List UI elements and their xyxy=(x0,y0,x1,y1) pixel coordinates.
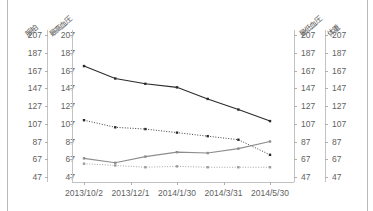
series-weight xyxy=(83,140,271,164)
axis-tick-label: 147 xyxy=(301,84,315,93)
data-point-diastolic[interactable] xyxy=(144,128,146,130)
axis-tick-label: 187 xyxy=(301,49,315,58)
data-point-pulse[interactable] xyxy=(206,166,208,168)
axis-tick-mark xyxy=(70,159,73,160)
data-point-weight[interactable] xyxy=(237,147,239,149)
series-systolic xyxy=(83,65,271,122)
axis-tick-label: 127 xyxy=(301,102,315,111)
axis-ticks-systolic: 207187167147127107876747 xyxy=(45,30,79,182)
data-point-weight[interactable] xyxy=(144,155,146,157)
x-axis-tick-mark xyxy=(270,182,271,185)
axis-tick-label: 167 xyxy=(301,66,315,75)
axis-tick-mark xyxy=(70,124,73,125)
x-axis-tick-mark xyxy=(177,182,178,185)
x-axis-label: 2014/5/30 xyxy=(251,188,289,198)
axis-rule-systolic xyxy=(72,30,73,182)
data-point-pulse[interactable] xyxy=(269,166,271,168)
axis-tick-label: 207 xyxy=(332,31,346,40)
axis-ticks-diastolic: 207187167147127107876747 xyxy=(294,30,328,182)
axis-tick-list-pulse: 207187167147127107876747 xyxy=(12,30,46,182)
axis-tick-label: 167 xyxy=(28,66,42,75)
axis-tick-list-diastolic: 207187167147127107876747 xyxy=(294,30,328,182)
axis-tick-label: 107 xyxy=(301,120,315,129)
axis-tick-list-weight: 207187167147127107876747 xyxy=(325,30,359,182)
axis-tick-label: 67 xyxy=(301,155,310,164)
axis-tick-mark xyxy=(70,106,73,107)
data-point-diastolic[interactable] xyxy=(206,135,208,137)
x-axis-label: 2014/3/31 xyxy=(205,188,243,198)
data-point-systolic[interactable] xyxy=(176,86,178,88)
axis-tick-label: 87 xyxy=(332,137,341,146)
data-point-weight[interactable] xyxy=(83,157,85,159)
axis-tick-mark xyxy=(70,53,73,54)
axis-tick-label: 147 xyxy=(28,84,42,93)
page-edge-right xyxy=(367,0,368,211)
x-axis-tick-mark xyxy=(84,182,85,185)
axis-tick-label: 87 xyxy=(301,137,310,146)
x-axis-tick-mark xyxy=(131,182,132,185)
data-point-pulse[interactable] xyxy=(144,166,146,168)
data-point-diastolic[interactable] xyxy=(237,139,239,141)
axis-tick-label: 207 xyxy=(301,31,315,40)
axis-tick-mark xyxy=(70,88,73,89)
data-point-diastolic[interactable] xyxy=(176,131,178,133)
data-point-diastolic[interactable] xyxy=(269,154,271,156)
chart-page: 脈拍 最高血圧 最低血圧 体重 207187167147127107876747… xyxy=(0,0,373,211)
axis-tick-label: 87 xyxy=(33,137,42,146)
data-point-systolic[interactable] xyxy=(237,108,239,110)
series-diastolic xyxy=(83,119,271,156)
axis-tick-label: 47 xyxy=(33,173,42,182)
axis-tick-label: 187 xyxy=(28,49,42,58)
page-edge-left xyxy=(7,0,8,211)
axis-tick-list-systolic: 207187167147127107876747 xyxy=(45,30,79,182)
axis-ticks-pulse: 207187167147127107876747 xyxy=(12,30,46,182)
data-point-systolic[interactable] xyxy=(83,65,85,67)
data-point-pulse[interactable] xyxy=(114,164,116,166)
x-axis-tick-mark xyxy=(224,182,225,185)
x-axis-line xyxy=(72,182,294,183)
data-point-pulse[interactable] xyxy=(237,166,239,168)
axis-tick-mark xyxy=(70,71,73,72)
axis-tick-mark xyxy=(70,177,73,178)
axis-tick-label: 147 xyxy=(332,84,346,93)
axis-tick-label: 67 xyxy=(33,155,42,164)
axis-tick-label: 187 xyxy=(332,49,346,58)
axis-tick-label: 127 xyxy=(332,102,346,111)
axis-tick-label: 107 xyxy=(28,120,42,129)
data-point-weight[interactable] xyxy=(269,140,271,142)
axis-tick-mark xyxy=(70,142,73,143)
data-point-systolic[interactable] xyxy=(144,83,146,85)
data-point-systolic[interactable] xyxy=(114,77,116,79)
data-point-weight[interactable] xyxy=(176,151,178,153)
data-point-systolic[interactable] xyxy=(269,120,271,122)
plot-area xyxy=(79,30,275,182)
x-axis-label: 2013/12/1 xyxy=(112,188,150,198)
axis-tick-label: 47 xyxy=(332,173,341,182)
data-point-pulse[interactable] xyxy=(176,165,178,167)
axis-tick-label: 207 xyxy=(28,31,42,40)
axis-tick-label: 167 xyxy=(332,66,346,75)
series-pulse xyxy=(83,162,271,168)
data-point-weight[interactable] xyxy=(206,152,208,154)
data-point-pulse[interactable] xyxy=(83,162,85,164)
data-point-weight[interactable] xyxy=(114,162,116,164)
data-point-systolic[interactable] xyxy=(206,98,208,100)
axis-tick-label: 107 xyxy=(332,120,346,129)
axis-tick-mark xyxy=(70,35,73,36)
data-point-diastolic[interactable] xyxy=(83,119,85,121)
x-axis-label: 2014/1/30 xyxy=(158,188,196,198)
axis-ticks-weight: 207187167147127107876747 xyxy=(325,30,359,182)
series-canvas xyxy=(79,30,275,182)
series-line-diastolic xyxy=(84,120,270,155)
data-point-diastolic[interactable] xyxy=(114,126,116,128)
axis-tick-label: 47 xyxy=(301,173,310,182)
axis-tick-label: 67 xyxy=(332,155,341,164)
axis-tick-label: 127 xyxy=(28,102,42,111)
x-axis-label: 2013/10/2 xyxy=(65,188,103,198)
series-line-systolic xyxy=(84,66,270,121)
